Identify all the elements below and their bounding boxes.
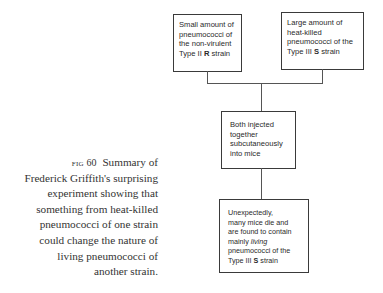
result-type-text: Type III: [228, 256, 254, 265]
s-strain-suffix: strain: [319, 47, 340, 56]
connector-to-injection: [261, 83, 262, 112]
caption-line1: fig 60 Summary of: [0, 155, 158, 171]
caption-line4: something from heat-killed: [0, 202, 158, 218]
r-strain-type-text: Type II: [179, 49, 204, 58]
injection-line3: subcutaneously: [230, 139, 291, 149]
s-strain-line3: pneumococci of the: [287, 37, 359, 47]
caption-line3: experiment showing that: [0, 186, 158, 202]
injection-box: Both injected together subcutaneously in…: [221, 111, 296, 169]
result-line3: are found to contain: [228, 227, 304, 237]
r-strain-line1: Small amount of: [179, 20, 237, 30]
r-strain-line4: Type II R strain: [179, 49, 237, 59]
connector-right-down: [322, 69, 323, 84]
result-line5: pneumococci of the: [228, 246, 304, 256]
caption-line7: living pneumococci of: [0, 249, 158, 265]
s-strain-line4: Type III S strain: [287, 47, 359, 57]
result-mainly: mainly: [228, 237, 251, 246]
result-line4: mainly living: [228, 237, 304, 247]
connector-horizontal: [207, 83, 323, 84]
r-strain-suffix: strain: [209, 49, 230, 58]
figure-caption: fig 60 Summary of Frederick Griffith's s…: [0, 155, 158, 280]
injection-line1: Both injected: [230, 120, 291, 130]
r-strain-line3: the non-virulent: [179, 39, 237, 49]
result-suffix: strain: [258, 256, 278, 265]
caption-line5: pneumococci of one strain: [0, 217, 158, 233]
caption-line8: another strain.: [0, 264, 158, 280]
result-line1: Unexpectedly,: [228, 208, 304, 218]
connector-to-result: [261, 168, 262, 200]
s-strain-type-text: Type III: [287, 47, 314, 56]
result-living: living: [251, 237, 267, 246]
r-strain-box: Small amount of pneumococci of the non-v…: [173, 14, 242, 72]
caption-text-0: Summary of: [102, 156, 158, 168]
s-strain-line2: heat-killed: [287, 28, 359, 38]
s-strain-box: Large amount of heat-killed pneumococci …: [281, 12, 364, 70]
caption-line6: could change the nature of: [0, 233, 158, 249]
injection-line2: together: [230, 130, 291, 140]
result-line2: many mice die and: [228, 218, 304, 228]
result-box: Unexpectedly, many mice die and are foun…: [219, 199, 309, 273]
s-strain-line1: Large amount of: [287, 18, 359, 28]
injection-line4: into mice: [230, 149, 291, 159]
figure-label: fig 60: [72, 157, 97, 168]
result-line6: Type III S strain: [228, 256, 304, 266]
r-strain-line2: pneumococci of: [179, 30, 237, 40]
caption-line2: Frederick Griffith's surprising: [0, 171, 158, 187]
